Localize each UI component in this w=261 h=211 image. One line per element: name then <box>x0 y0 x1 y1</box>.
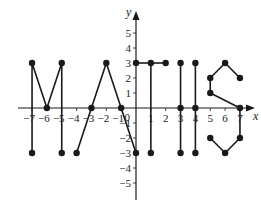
point-dot <box>222 150 228 156</box>
x-tick-label: −4 <box>68 112 80 124</box>
x-tick-label: −7 <box>23 112 35 124</box>
point-dot <box>29 150 35 156</box>
tick-labels: −7−6−5−4−3−2−11234567−5−4−3−2−1123450xy <box>23 5 259 189</box>
x-tick-label: −2 <box>97 112 109 124</box>
point-dot <box>59 150 65 156</box>
maths-coordinate-plot: −7−6−5−4−3−2−11234567−5−4−3−2−1123450xy <box>0 0 261 211</box>
point-dot <box>44 105 50 111</box>
y-tick-label: −4 <box>119 162 131 174</box>
x-tick-label: 3 <box>178 112 184 124</box>
y-tick-label: 1 <box>126 87 132 99</box>
y-axis-arrow-icon <box>133 11 140 20</box>
point-dot <box>163 60 169 66</box>
point-dot <box>192 150 198 156</box>
point-dot <box>207 135 213 141</box>
point-dot <box>222 60 228 66</box>
point-dot <box>177 150 183 156</box>
point-dot <box>59 60 65 66</box>
point-dot <box>177 60 183 66</box>
x-tick-label: −6 <box>38 112 50 124</box>
point-dot <box>207 90 213 96</box>
x-tick-label: −3 <box>83 112 95 124</box>
point-dot <box>192 105 198 111</box>
x-tick-label: 7 <box>237 112 243 124</box>
y-axis-label: y <box>125 5 132 19</box>
axes <box>18 11 255 200</box>
x-tick-label: 5 <box>208 112 214 124</box>
y-tick-label: 4 <box>126 42 132 54</box>
y-tick-label: 3 <box>126 57 132 69</box>
origin-label: 0 <box>125 111 131 123</box>
point-dot <box>133 60 139 66</box>
point-dot <box>133 150 139 156</box>
point-dot <box>237 105 243 111</box>
point-dot <box>237 135 243 141</box>
point-dot <box>118 105 124 111</box>
x-tick-label: 6 <box>222 112 228 124</box>
y-tick-label: −3 <box>119 147 131 159</box>
point-dot <box>192 60 198 66</box>
point-dot <box>207 75 213 81</box>
point-dot <box>148 60 154 66</box>
point-dot <box>73 150 79 156</box>
y-tick-label: −2 <box>119 132 131 144</box>
point-dot <box>103 60 109 66</box>
x-tick-label: 4 <box>193 112 199 124</box>
y-tick-label: 5 <box>126 27 132 39</box>
x-tick-label: 2 <box>163 112 169 124</box>
point-dot <box>237 75 243 81</box>
y-tick-label: −5 <box>119 177 131 189</box>
x-axis-label: x <box>252 109 259 123</box>
x-tick-label: 1 <box>148 112 154 124</box>
point-dot <box>29 60 35 66</box>
x-tick-label: −5 <box>53 112 65 124</box>
point-dot <box>177 105 183 111</box>
y-tick-label: 2 <box>126 72 132 84</box>
point-dot <box>88 105 94 111</box>
point-dot <box>148 150 154 156</box>
